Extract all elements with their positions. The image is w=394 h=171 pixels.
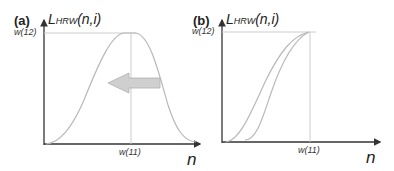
panel-b-y-tick-w12: w(12) <box>192 26 215 36</box>
panel-a-x-axis-label: n <box>187 150 196 170</box>
panel-a-y-tick-w12: w(12) <box>14 27 37 37</box>
panel-b-curve-inner <box>245 32 309 140</box>
panel-b-ylabel-args: (n,i) <box>255 11 279 27</box>
panel-a-y-axis-label: LHRW(n,i) <box>48 11 101 27</box>
panel-a-ylabel-main: L <box>48 11 56 27</box>
panel-a-label: (a) <box>14 13 30 28</box>
panel-b-y-axis-label: LHRW(n,i) <box>226 11 279 27</box>
panel-a-ylabel-sub: HRW <box>56 16 77 26</box>
panel-a-x-tick-w11: w(11) <box>119 147 141 157</box>
panel-a-left-arrow <box>108 73 160 93</box>
panel-b-plot <box>222 20 380 143</box>
panel-b-x-tick-w11: w(11) <box>298 145 320 155</box>
panel-a-plot <box>44 20 200 145</box>
panel-b-x-axis-label: n <box>366 148 375 168</box>
panel-b-ylabel-sub: HRW <box>234 16 255 26</box>
panel-b-ylabel-main: L <box>226 11 234 27</box>
panel-a-ylabel-args: (n,i) <box>77 11 101 27</box>
panel-b-curve-outer <box>226 32 309 142</box>
